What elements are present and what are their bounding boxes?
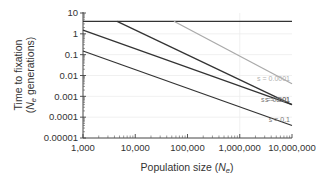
series-label: s = 0.1: [269, 116, 290, 123]
series-label: s = 0.01: [265, 96, 290, 103]
x-tick-label: 1,000: [71, 142, 95, 153]
series-line: [83, 51, 292, 126]
x-tick-label: 10,000: [121, 142, 150, 153]
x-tick-label: 1,000,000: [219, 142, 261, 153]
y-tick-label: 0.01: [60, 70, 79, 81]
fixation-time-chart: s = 0.0001s = 0.001s = 0.01s = 0.1 1010.…: [0, 0, 327, 183]
y-tick-label: 10: [67, 7, 78, 18]
series-labels: s = 0.0001s = 0.001s = 0.01s = 0.1: [257, 75, 290, 124]
y-tick-label: 1: [73, 28, 78, 39]
x-tick-label: 10,000,000: [268, 142, 316, 153]
y-axis-title: Time to fixation (Ne generations): [12, 37, 38, 114]
y-tick-label: 0.1: [65, 49, 78, 60]
x-tick-label: 100,000: [170, 142, 204, 153]
series-label: s = 0.0001: [257, 75, 290, 82]
y-axis-title-line2: (Ne generations): [24, 37, 38, 114]
y-axis-title-line1: Time to fixation: [12, 39, 24, 110]
data-series: [83, 21, 292, 125]
x-axis-title: Population size (Ne): [141, 161, 234, 175]
y-tick-label: 0.001: [54, 91, 78, 102]
y-tick-label: 0.0001: [49, 111, 78, 122]
